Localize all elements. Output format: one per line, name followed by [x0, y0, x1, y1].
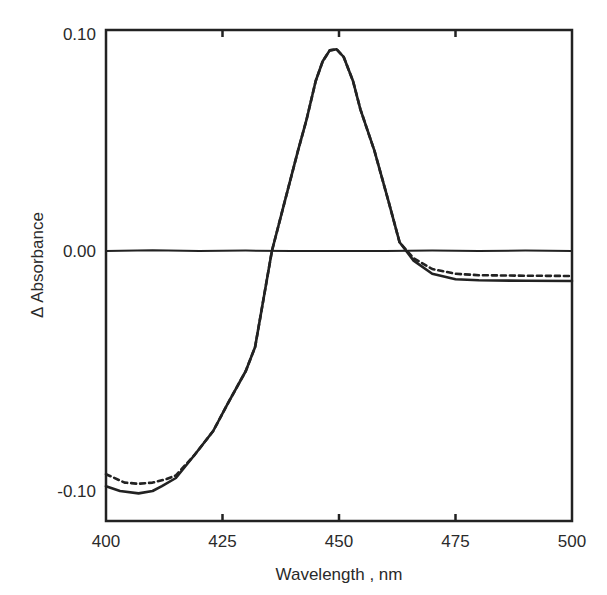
y-tick-label: 0.00: [63, 242, 96, 261]
x-axis-ticks: 400425450475500: [92, 30, 586, 551]
spectrum-chart: 400425450475500 0.100.00-0.10 Wavelength…: [0, 0, 607, 595]
series-line-2: [106, 49, 572, 484]
y-axis-ticks: 0.100.00-0.10: [57, 25, 96, 501]
x-tick-label: 500: [558, 532, 586, 551]
y-axis-title: Δ Absorbance: [28, 212, 47, 318]
x-axis-title: Wavelength , nm: [276, 565, 403, 584]
x-tick-label: 400: [92, 532, 120, 551]
x-tick-label: 425: [208, 532, 236, 551]
y-tick-label: 0.10: [63, 25, 96, 44]
plot-lines: [106, 49, 572, 493]
x-tick-label: 450: [325, 532, 353, 551]
series-line-0: [106, 250, 572, 251]
x-tick-label: 475: [441, 532, 469, 551]
series-line-1: [106, 49, 572, 493]
y-tick-label: -0.10: [57, 482, 96, 501]
